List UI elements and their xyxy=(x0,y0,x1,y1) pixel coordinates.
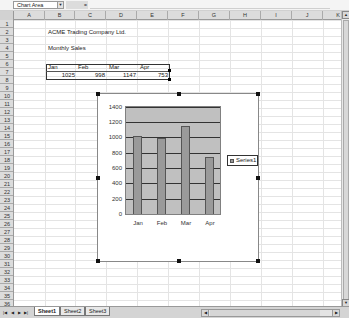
scroll-up-icon[interactable]: ▲ xyxy=(342,11,349,19)
row-header[interactable]: 12 xyxy=(0,108,14,116)
row-header[interactable]: 23 xyxy=(0,196,14,204)
y-tick-label: 200 xyxy=(100,196,122,202)
row-header[interactable]: 32 xyxy=(0,268,14,276)
column-header-h[interactable]: H xyxy=(230,11,261,20)
row-header[interactable]: 34 xyxy=(0,284,14,292)
row-header[interactable]: 16 xyxy=(0,140,14,148)
bar-jan[interactable] xyxy=(133,136,142,214)
row-header[interactable]: 28 xyxy=(0,236,14,244)
cell-c7-value[interactable]: 998 xyxy=(76,71,105,79)
bar-mar[interactable] xyxy=(181,126,190,214)
chart-resize-handle[interactable] xyxy=(96,92,100,96)
chart-resize-handle[interactable] xyxy=(177,92,181,96)
row-header[interactable]: 13 xyxy=(0,116,14,124)
cell-b7-value[interactable]: 1025 xyxy=(46,71,75,79)
cell-c6-month[interactable]: Feb xyxy=(78,63,88,71)
row-header[interactable]: 4 xyxy=(0,44,14,52)
row-header[interactable]: 31 xyxy=(0,260,14,268)
chart-resize-handle[interactable] xyxy=(256,92,260,96)
row-header[interactable]: 29 xyxy=(0,244,14,252)
chart-legend[interactable]: Series1 xyxy=(227,155,258,166)
vertical-scrollbar[interactable]: ▲ ▼ xyxy=(341,11,349,307)
last-sheet-icon[interactable]: ▶| xyxy=(23,309,29,316)
next-sheet-icon[interactable]: ▶ xyxy=(16,309,22,316)
grid-line xyxy=(292,20,293,306)
y-tick-label: 600 xyxy=(100,165,122,171)
row-header[interactable]: 6 xyxy=(0,60,14,68)
column-header-g[interactable]: G xyxy=(199,11,230,20)
row-header[interactable]: 21 xyxy=(0,180,14,188)
name-box-dropdown-icon[interactable]: ▼ xyxy=(57,1,64,9)
cell-d7-value[interactable]: 1147 xyxy=(107,71,136,79)
first-sheet-icon[interactable]: |◀ xyxy=(2,309,8,316)
row-header[interactable]: 20 xyxy=(0,172,14,180)
range-handle[interactable] xyxy=(168,69,171,72)
row-header[interactable]: 19 xyxy=(0,164,14,172)
row-header[interactable]: 15 xyxy=(0,132,14,140)
vertical-scroll-thumb[interactable] xyxy=(343,20,349,300)
equals-icon[interactable]: = xyxy=(83,2,88,8)
chart-resize-handle[interactable] xyxy=(256,259,260,263)
scroll-right-icon[interactable]: ▶ xyxy=(332,310,339,316)
row-header[interactable]: 9 xyxy=(0,84,14,92)
x-tick-label: Jan xyxy=(126,220,150,226)
row-header[interactable]: 8 xyxy=(0,76,14,84)
column-header-j[interactable]: J xyxy=(292,11,323,20)
tab-sheet3[interactable]: Sheet3 xyxy=(85,307,110,316)
cell-d6-month[interactable]: Mar xyxy=(109,63,119,71)
row-header[interactable]: 11 xyxy=(0,100,14,108)
sheet-tab-bar: |◀ ◀ ▶ ▶| Sheet1 Sheet2 Sheet3 ◀ ▶ xyxy=(0,306,349,318)
column-header-d[interactable]: D xyxy=(106,11,137,20)
bar-feb[interactable] xyxy=(157,138,166,214)
row-header[interactable]: 7 xyxy=(0,68,14,76)
chart-resize-handle[interactable] xyxy=(256,176,260,180)
row-header[interactable]: 1 xyxy=(0,20,14,28)
chart-resize-handle[interactable] xyxy=(177,259,181,263)
row-header[interactable]: 24 xyxy=(0,204,14,212)
row-header[interactable]: 3 xyxy=(0,36,14,44)
cell-b4-title[interactable]: Monthly Sales xyxy=(48,44,86,52)
formula-bar-input[interactable] xyxy=(90,1,330,9)
select-all-corner[interactable] xyxy=(0,11,14,20)
x-tick-label: Feb xyxy=(150,220,174,226)
row-header[interactable]: 30 xyxy=(0,252,14,260)
cell-e7-value[interactable]: 753 xyxy=(138,71,168,79)
row-header[interactable]: 26 xyxy=(0,220,14,228)
x-tick-label: Mar xyxy=(174,220,198,226)
column-header-e[interactable]: E xyxy=(137,11,168,20)
row-header[interactable]: 10 xyxy=(0,92,14,100)
row-header[interactable]: 33 xyxy=(0,276,14,284)
cell-b6-month[interactable]: Jan xyxy=(48,63,58,71)
name-box[interactable]: Chart Area xyxy=(13,1,63,9)
scroll-left-icon[interactable]: ◀ xyxy=(202,310,209,316)
column-header-a[interactable]: A xyxy=(14,11,45,20)
row-header[interactable]: 25 xyxy=(0,212,14,220)
range-fill-handle[interactable] xyxy=(168,78,171,81)
row-header[interactable]: 2 xyxy=(0,28,14,36)
row-header[interactable]: 17 xyxy=(0,148,14,156)
chart-resize-handle[interactable] xyxy=(96,259,100,263)
horizontal-scrollbar[interactable]: ◀ ▶ xyxy=(201,309,340,317)
row-header[interactable]: 18 xyxy=(0,156,14,164)
cell-b2-company-name[interactable]: ACME Trading Company Ltd. xyxy=(48,28,126,36)
row-header[interactable]: 14 xyxy=(0,124,14,132)
column-header-i[interactable]: I xyxy=(261,11,292,20)
bar-apr[interactable] xyxy=(205,157,214,214)
row-header[interactable]: 35 xyxy=(0,292,14,300)
tab-sheet1[interactable]: Sheet1 xyxy=(34,307,60,316)
row-header[interactable]: 5 xyxy=(0,52,14,60)
row-header[interactable]: 22 xyxy=(0,188,14,196)
column-header-b[interactable]: B xyxy=(45,11,75,20)
tab-sheet2[interactable]: Sheet2 xyxy=(60,307,85,316)
prev-sheet-icon[interactable]: ◀ xyxy=(9,309,15,316)
grid-line xyxy=(323,20,324,306)
plot-area[interactable]: 1400 1200 1000 800 600 400 200 0 Jan Feb… xyxy=(125,106,221,215)
column-header-c[interactable]: C xyxy=(75,11,106,20)
horizontal-scroll-thumb[interactable] xyxy=(210,310,320,316)
cell-e6-month[interactable]: Apr xyxy=(140,63,149,71)
row-header[interactable]: 27 xyxy=(0,228,14,236)
gridline xyxy=(126,107,220,108)
chart-area[interactable]: 1400 1200 1000 800 600 400 200 0 Jan Feb… xyxy=(97,93,259,262)
column-header-f[interactable]: F xyxy=(168,11,199,20)
column-header-k[interactable]: K xyxy=(323,11,341,20)
